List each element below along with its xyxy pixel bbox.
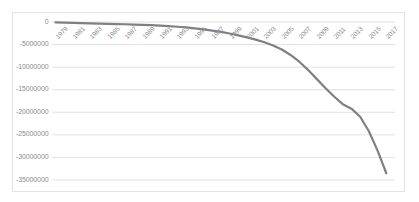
y-axis-tick-label: 0 xyxy=(0,18,49,26)
gridlines xyxy=(53,22,396,180)
y-axis-tick-label: -10000000 xyxy=(0,63,49,71)
series-lines xyxy=(56,22,387,173)
y-axis-tick-label: -30000000 xyxy=(0,153,49,161)
series-line xyxy=(56,22,387,173)
y-axis-tick-label: -20000000 xyxy=(0,108,49,116)
y-axis-tick-label: -15000000 xyxy=(0,85,49,93)
y-axis-tick-label: -25000000 xyxy=(0,130,49,138)
y-axis-tick-label: -35000000 xyxy=(0,176,49,184)
y-axis-tick-label: -5000000 xyxy=(0,40,49,48)
